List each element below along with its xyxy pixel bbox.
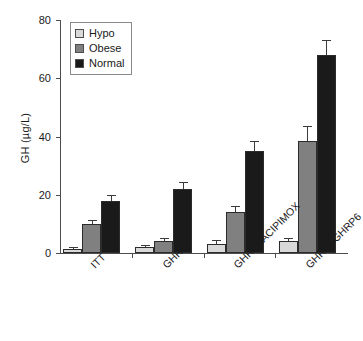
error-bar-cap xyxy=(160,238,169,239)
error-bar-cap xyxy=(141,245,150,246)
legend-item-normal: Normal xyxy=(75,56,124,71)
y-tick-mark xyxy=(56,195,60,196)
y-tick-mark xyxy=(56,78,60,79)
error-bar-line xyxy=(307,126,308,141)
bar-obese-itt xyxy=(82,224,101,253)
error-bar-cap xyxy=(303,126,312,127)
y-tick-label: 20 xyxy=(27,189,51,201)
error-bar-cap xyxy=(250,141,259,142)
error-bar-cap xyxy=(212,240,221,241)
error-bar-cap xyxy=(88,220,97,221)
error-bar-cap xyxy=(107,195,116,196)
legend-item-hypo: Hypo xyxy=(75,26,124,41)
bar-normal-ghrh-ghrp6 xyxy=(317,55,336,253)
bar-normal-itt xyxy=(101,201,120,253)
x-group-separator-tick xyxy=(204,254,205,258)
y-tick-mark xyxy=(56,137,60,138)
error-bar-line xyxy=(183,182,184,189)
y-tick-label: 40 xyxy=(27,131,51,143)
legend-swatch-normal xyxy=(75,59,84,68)
legend-item-obese: Obese xyxy=(75,41,124,56)
error-bar-cap xyxy=(322,40,331,41)
y-axis-line xyxy=(60,20,61,254)
error-bar-line xyxy=(254,141,255,151)
bar-hypo-itt xyxy=(63,249,82,253)
y-tick-mark xyxy=(56,253,60,254)
legend-swatch-obese xyxy=(75,44,84,53)
legend-label: Hypo xyxy=(89,28,115,39)
error-bar-cap xyxy=(231,206,240,207)
legend-label: Obese xyxy=(89,43,121,54)
y-tick-label: 60 xyxy=(27,72,51,84)
y-tick-mark xyxy=(56,20,60,21)
bar-obese-ghrh-acipimox xyxy=(226,212,245,253)
legend: HypoObeseNormal xyxy=(70,22,132,75)
legend-label: Normal xyxy=(89,58,124,69)
bar-hypo-ghrh-ghrp6 xyxy=(279,241,298,253)
bar-obese-ghrh-ghrp6 xyxy=(298,141,317,253)
error-bar-line xyxy=(326,40,327,55)
legend-swatch-hypo xyxy=(75,29,84,38)
bar-hypo-ghrh-acipimox xyxy=(207,244,226,253)
error-bar-cap xyxy=(69,247,78,248)
y-tick-label: 0 xyxy=(27,247,51,259)
x-group-separator-tick xyxy=(132,254,133,258)
y-tick-label: 80 xyxy=(27,14,51,26)
bar-hypo-ghrh xyxy=(135,247,154,253)
error-bar-cap xyxy=(284,238,293,239)
x-group-separator-tick xyxy=(275,254,276,258)
error-bar-cap xyxy=(179,182,188,183)
